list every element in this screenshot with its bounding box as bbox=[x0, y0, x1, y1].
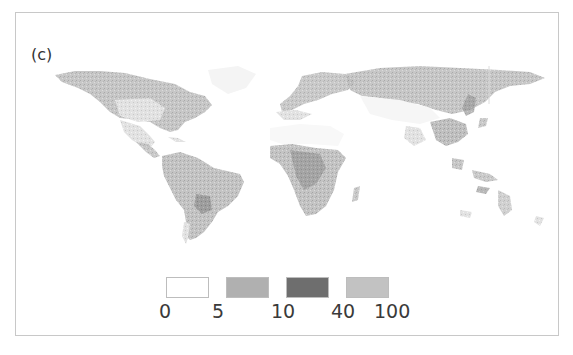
legend-swatch-10-40 bbox=[286, 277, 329, 298]
legend-swatch-5-10 bbox=[226, 277, 269, 298]
region-oceania bbox=[452, 158, 544, 226]
legend-tick-0: 0 bbox=[159, 300, 171, 322]
region-europe bbox=[276, 72, 355, 120]
region-africa bbox=[270, 124, 360, 216]
legend-swatch-0-5 bbox=[166, 277, 209, 298]
region-north-america bbox=[55, 71, 212, 158]
legend-tick-10: 10 bbox=[271, 300, 295, 322]
legend-tick-5: 5 bbox=[212, 300, 224, 322]
legend-swatch-40-100 bbox=[346, 277, 389, 298]
region-asia bbox=[345, 66, 545, 146]
legend-tick-100: 100 bbox=[374, 300, 410, 322]
region-greenland bbox=[208, 66, 256, 94]
legend-tick-40: 40 bbox=[331, 300, 355, 322]
region-south-america bbox=[162, 152, 244, 244]
